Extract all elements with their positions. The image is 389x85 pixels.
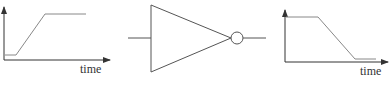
output-signal <box>286 17 376 59</box>
inverter-icon <box>128 5 266 72</box>
output-xlabel: time <box>360 64 381 78</box>
input-signal <box>5 14 86 55</box>
input-waveform-plot: time <box>4 7 110 76</box>
output-waveform-plot: time <box>285 10 388 78</box>
inverter-diagram: time time <box>0 0 389 85</box>
input-xlabel: time <box>80 62 101 76</box>
inverter-triangle <box>151 5 231 72</box>
inverter-bubble <box>231 32 243 44</box>
